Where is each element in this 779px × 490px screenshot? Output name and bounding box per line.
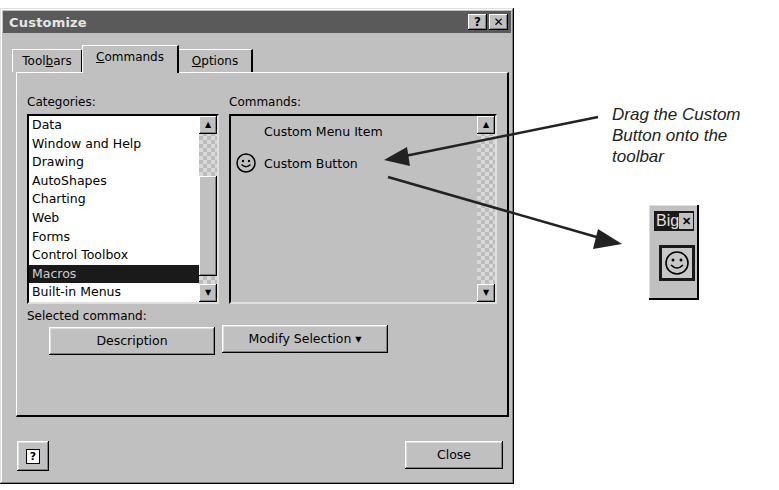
arrowhead-icon [593, 229, 622, 249]
annotation-arrows [0, 0, 779, 490]
tab-label: ommands [104, 50, 164, 64]
tab-commands[interactable]: Commands [82, 45, 179, 73]
arrowhead-icon [384, 147, 410, 166]
